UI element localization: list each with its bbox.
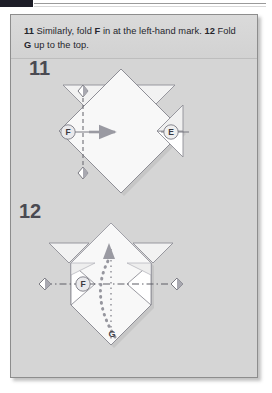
label-tag-f-12: F <box>76 277 90 291</box>
caption-step-11-number: 11 <box>24 26 34 36</box>
label-text-f-11: F <box>65 127 70 137</box>
page-top-chrome <box>0 0 272 14</box>
header-divider-rule <box>34 3 266 7</box>
caption-step-12-text-a: Fold <box>215 26 236 36</box>
left-alignment-diamond-12 <box>39 278 51 290</box>
diagram-stage: 11 <box>11 53 258 378</box>
step-number-12: 12 <box>19 200 41 222</box>
caption-step-12-text-b: up to the top. <box>31 40 89 50</box>
label-text-f-12: F <box>80 279 85 289</box>
step-number-11: 11 <box>29 57 50 79</box>
label-text-g-12: G <box>108 329 115 339</box>
diagram-step-11: 11 <box>29 57 189 196</box>
label-text-e-11: E <box>168 127 174 137</box>
caption-step-11-text-b: in at the left-hand mark. <box>100 26 204 36</box>
header-tab-block <box>0 0 33 7</box>
instruction-panel: 11 Similarly, fold F in at the left-hand… <box>10 14 258 378</box>
bottom-alignment-diamond-11 <box>78 167 88 179</box>
diagram-step-12: 12 <box>19 200 183 348</box>
caption-text: 11 Similarly, fold F in at the left-hand… <box>24 24 244 52</box>
caption-step-12-number: 12 <box>204 26 214 36</box>
right-alignment-diamond-12 <box>171 278 183 290</box>
caption-step-11-text-a: Similarly, fold <box>34 26 95 36</box>
